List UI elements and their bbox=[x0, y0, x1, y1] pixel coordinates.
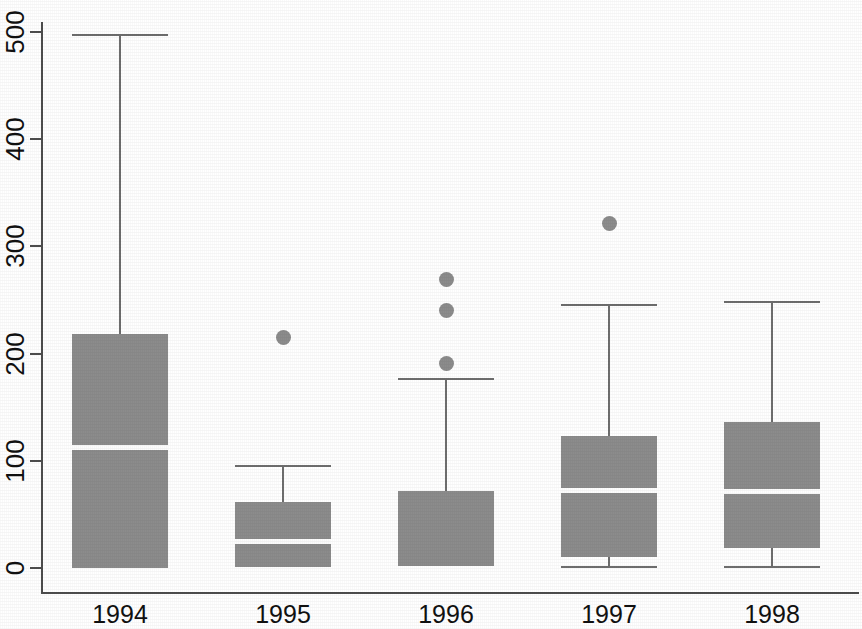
y-axis-tick bbox=[30, 31, 41, 33]
x-axis-tick-label-1994: 1994 bbox=[92, 600, 148, 629]
y-axis-tick-label-text: 500 bbox=[2, 10, 28, 53]
upper-whisker-cap bbox=[561, 304, 657, 306]
x-axis-line bbox=[41, 592, 859, 594]
upper-whisker-stem bbox=[608, 304, 610, 436]
y-axis-tick-label-text: 300 bbox=[2, 225, 28, 268]
y-axis-tick bbox=[30, 138, 41, 140]
y-axis-tick-label: 0 bbox=[0, 558, 30, 578]
lower-whisker-cap bbox=[561, 566, 657, 568]
y-axis-tick-label-text: 100 bbox=[2, 439, 28, 482]
outlier-point bbox=[439, 356, 454, 371]
upper-whisker-cap bbox=[398, 378, 494, 380]
upper-whisker-cap bbox=[724, 301, 820, 303]
y-axis-tick-label: 300 bbox=[0, 236, 30, 256]
y-axis-tick-label: 200 bbox=[0, 344, 30, 364]
x-axis-tick-label-1997: 1997 bbox=[581, 600, 637, 629]
boxplot-chart: 0100200300400500 19941995199619971998 bbox=[0, 0, 862, 629]
outlier-point bbox=[439, 272, 454, 287]
box-iqr bbox=[72, 334, 168, 568]
upper-whisker-cap bbox=[235, 465, 331, 467]
upper-whisker-stem bbox=[119, 34, 121, 334]
y-axis-tick-label: 500 bbox=[0, 22, 30, 42]
y-axis-tick-label-text: 0 bbox=[2, 561, 28, 575]
outlier-point bbox=[276, 330, 291, 345]
y-axis-line bbox=[41, 22, 43, 594]
box-iqr bbox=[235, 502, 331, 567]
y-axis-tick-label-text: 200 bbox=[2, 332, 28, 375]
x-axis-tick-label-1996: 1996 bbox=[418, 600, 474, 629]
x-axis-tick-label-1998: 1998 bbox=[744, 600, 800, 629]
y-axis-tick-label-text: 400 bbox=[2, 117, 28, 160]
y-axis-tick bbox=[30, 460, 41, 462]
box-iqr bbox=[724, 422, 820, 547]
lower-whisker-cap bbox=[724, 566, 820, 568]
median-line bbox=[72, 445, 168, 450]
x-axis-tick-label-1995: 1995 bbox=[255, 600, 311, 629]
upper-whisker-cap bbox=[72, 34, 168, 36]
box-iqr bbox=[561, 436, 657, 557]
y-axis-tick bbox=[30, 567, 41, 569]
upper-whisker-stem bbox=[445, 378, 447, 491]
median-line bbox=[235, 539, 331, 544]
lower-whisker-stem bbox=[608, 557, 610, 566]
median-line bbox=[561, 488, 657, 493]
y-axis-tick-label: 400 bbox=[0, 129, 30, 149]
outlier-point bbox=[439, 303, 454, 318]
outlier-point bbox=[602, 216, 617, 231]
upper-whisker-stem bbox=[771, 301, 773, 422]
upper-whisker-stem bbox=[282, 465, 284, 501]
y-axis-tick-label: 100 bbox=[0, 451, 30, 471]
lower-whisker-stem bbox=[771, 548, 773, 566]
y-axis-tick bbox=[30, 245, 41, 247]
y-axis-tick bbox=[30, 353, 41, 355]
median-line bbox=[724, 489, 820, 494]
box-iqr bbox=[398, 491, 494, 566]
